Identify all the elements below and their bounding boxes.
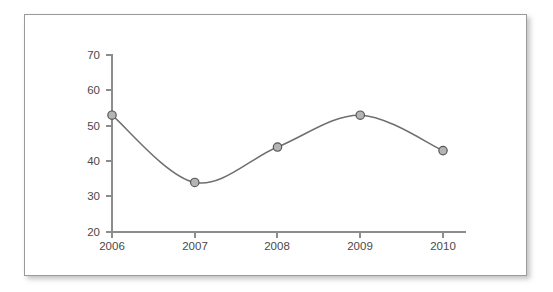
x-tick-label-2008: 2008	[264, 240, 290, 252]
x-tick-label-2006: 2006	[99, 240, 125, 252]
x-tick-label-2007: 2007	[182, 240, 208, 252]
y-axis-ticks	[106, 55, 112, 232]
x-tick-label-2009: 2009	[347, 240, 373, 252]
data-point-2008	[273, 143, 281, 151]
y-tick-label-40: 40	[87, 155, 100, 167]
chart-svg: 70 60 50 40 30 20 2006 2007 2008 2009	[0, 0, 553, 292]
data-point-2010	[439, 146, 447, 154]
data-point-2009	[356, 111, 364, 119]
y-tick-label-30: 30	[87, 190, 100, 202]
line-chart: 70 60 50 40 30 20 2006 2007 2008 2009	[0, 0, 553, 292]
y-tick-label-50: 50	[87, 120, 100, 132]
y-axis-tick-labels: 70 60 50 40 30 20	[87, 49, 100, 238]
data-point-2006	[108, 111, 116, 119]
x-axis-tick-labels: 2006 2007 2008 2009 2010	[99, 240, 456, 252]
x-tick-label-2010: 2010	[430, 240, 456, 252]
y-tick-label-70: 70	[87, 49, 100, 61]
y-tick-label-60: 60	[87, 84, 100, 96]
series-markers	[108, 111, 447, 187]
y-tick-label-20: 20	[87, 226, 100, 238]
screenshot-canvas: 70 60 50 40 30 20 2006 2007 2008 2009	[0, 0, 553, 292]
x-axis-ticks	[112, 232, 443, 238]
data-point-2007	[191, 178, 199, 186]
